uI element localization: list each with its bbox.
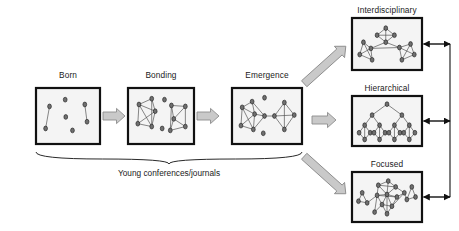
tree-node xyxy=(393,123,397,128)
graph-node xyxy=(64,115,68,120)
graph-node xyxy=(168,128,172,133)
graph-node xyxy=(370,57,374,62)
graph-node xyxy=(292,113,296,118)
graph-node xyxy=(398,45,402,50)
graph-node xyxy=(137,102,141,107)
graph-node xyxy=(273,114,277,119)
graph-node xyxy=(150,96,154,101)
tree-node xyxy=(385,102,389,107)
graph-node xyxy=(409,42,413,47)
tree-node xyxy=(383,130,387,135)
graph-node xyxy=(263,95,267,100)
stage-arrow-1-shape xyxy=(103,108,125,123)
graph-node xyxy=(71,128,75,133)
graph-node xyxy=(358,52,362,57)
tree-node xyxy=(378,123,382,128)
graph-node xyxy=(385,192,389,197)
graph-node xyxy=(375,33,379,38)
stage-label-born: Born xyxy=(36,70,100,80)
stage-arrow-1 xyxy=(103,108,125,123)
tree-node xyxy=(413,130,417,135)
young-brace xyxy=(36,152,302,164)
brace-path xyxy=(36,152,302,164)
stage-label-bonding: Bonding xyxy=(123,70,199,80)
graph-node xyxy=(365,200,369,205)
young-conferences-caption: Young conferences/journals xyxy=(0,168,338,178)
graph-node xyxy=(410,185,414,190)
tree-node xyxy=(400,113,404,118)
panel-interdisciplinary xyxy=(352,18,422,70)
graph-node xyxy=(251,127,255,132)
graph-node xyxy=(414,195,418,200)
graph-node xyxy=(400,57,404,62)
graph-node xyxy=(402,190,406,195)
fanout-arrow-interdisciplinary-shape xyxy=(299,41,351,90)
graph-node xyxy=(282,100,286,105)
tree-node xyxy=(387,130,391,135)
tree-node xyxy=(378,137,382,142)
stage-label-emergence: Emergence xyxy=(225,70,309,80)
tree-node xyxy=(402,130,406,135)
panel-hierarchical xyxy=(352,96,422,146)
graph-node xyxy=(83,102,87,107)
graph-node xyxy=(163,97,167,102)
graph-node xyxy=(48,104,52,109)
tree-node xyxy=(363,123,367,128)
graph-node xyxy=(369,46,373,51)
stage-bonding-frame xyxy=(128,88,194,144)
graph-node xyxy=(150,124,154,129)
tree-node xyxy=(363,137,367,142)
stage-born-frame xyxy=(36,88,100,144)
graph-node xyxy=(250,99,254,104)
graph-node xyxy=(360,190,364,195)
graph-node xyxy=(386,179,390,184)
graph-node xyxy=(239,123,243,128)
panel-bonding xyxy=(128,88,194,144)
graph-node xyxy=(263,114,267,119)
fanout-arrow-hierarchical xyxy=(312,112,336,127)
graph-node xyxy=(384,26,388,31)
graph-node xyxy=(172,116,176,121)
panel-born xyxy=(36,88,100,144)
fanout-arrow-interdisciplinary xyxy=(299,41,351,90)
graph-node xyxy=(384,40,388,45)
graph-node xyxy=(63,97,67,102)
graph-node xyxy=(136,121,140,126)
outcome-label-hierarchical: Hierarchical xyxy=(348,83,426,93)
graph-node xyxy=(373,210,377,215)
graph-node xyxy=(183,124,187,129)
tree-node xyxy=(393,137,397,142)
graph-node xyxy=(376,183,380,188)
graph-node xyxy=(390,204,394,209)
graph-node xyxy=(240,105,244,110)
panel-focused xyxy=(352,172,422,222)
graph-node xyxy=(44,126,48,131)
outcome-label-focused: Focused xyxy=(352,159,422,169)
graph-node xyxy=(395,195,399,200)
graph-node xyxy=(261,131,265,136)
graph-node xyxy=(412,52,416,57)
graph-node xyxy=(160,126,164,131)
tree-node xyxy=(357,130,361,135)
graph-node xyxy=(394,185,398,190)
tree-node xyxy=(368,130,372,135)
diagram-svg xyxy=(0,0,459,231)
graph-node xyxy=(405,197,409,202)
panel-emergence xyxy=(232,88,302,144)
graph-node xyxy=(385,211,389,216)
fanout-arrow-hierarchical-shape xyxy=(312,112,336,127)
graph-node xyxy=(153,109,157,114)
tree-node xyxy=(407,123,411,128)
graph-node xyxy=(375,193,379,198)
stage-arrow-2-shape xyxy=(197,108,219,123)
tree-node xyxy=(407,137,411,142)
graph-node xyxy=(170,103,174,108)
graph-node xyxy=(282,127,286,132)
graph-node xyxy=(85,119,89,124)
graph-node xyxy=(393,33,397,38)
outcome-label-interdisciplinary: Interdisciplinary xyxy=(340,5,434,15)
figure-canvas: BornBondingEmergenceInterdisciplinaryHie… xyxy=(0,0,459,231)
stage-arrow-2 xyxy=(197,108,219,123)
tree-node xyxy=(372,130,376,135)
graph-node xyxy=(380,202,384,207)
